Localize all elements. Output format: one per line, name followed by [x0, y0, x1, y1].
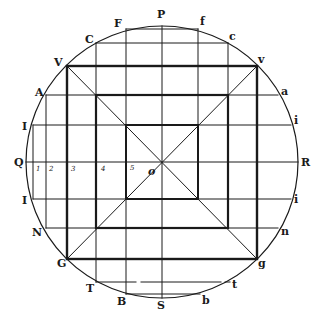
- label-G: G: [57, 257, 66, 270]
- label-B: B: [117, 295, 126, 308]
- label-F: F: [114, 17, 122, 30]
- label-f: f: [200, 15, 206, 28]
- scale-number-5: 5: [130, 164, 135, 172]
- scale-number-2: 2: [48, 165, 54, 173]
- label-I-lower: I: [22, 194, 27, 207]
- label-a: a: [281, 85, 288, 98]
- label-c: c: [229, 30, 236, 43]
- label-N: N: [32, 226, 42, 239]
- scale-number-3: 3: [71, 165, 76, 173]
- label-b: b: [202, 294, 210, 307]
- label-T: T: [86, 282, 95, 295]
- label-i-upper: i: [294, 114, 298, 127]
- scale-number-1: 1: [36, 165, 40, 173]
- scale-number-4: 4: [100, 165, 105, 173]
- label-A: A: [34, 86, 44, 99]
- label-S: S: [157, 299, 165, 312]
- label-n: n: [281, 225, 289, 238]
- label-Q: Q: [14, 156, 24, 169]
- label-origin-o: o: [148, 165, 155, 178]
- label-R: R: [301, 156, 311, 169]
- label-t: t: [232, 278, 238, 291]
- label-i-lower: i: [294, 193, 298, 206]
- label-v: v: [257, 53, 265, 66]
- label-C: C: [85, 33, 94, 46]
- label-g: g: [258, 257, 266, 270]
- label-V: V: [53, 56, 63, 69]
- geometric-diagram: P F f C c V A I v a i Q R 1 2 3 4 5 o I …: [0, 0, 323, 325]
- label-P: P: [157, 8, 165, 21]
- label-I-upper: I: [22, 120, 27, 133]
